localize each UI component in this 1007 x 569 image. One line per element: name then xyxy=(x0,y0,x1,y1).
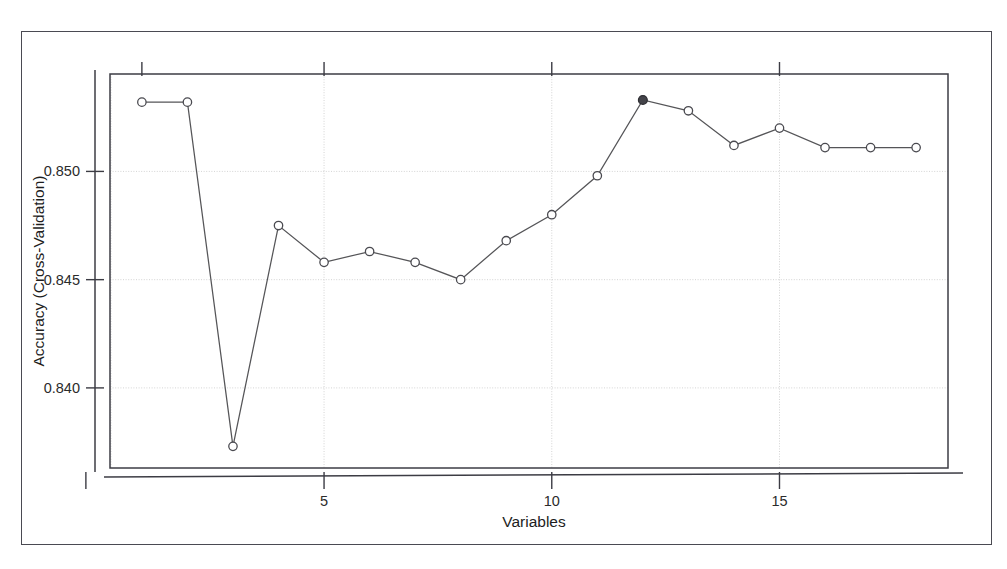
data-point xyxy=(138,98,146,106)
data-point xyxy=(229,442,237,450)
data-point xyxy=(730,141,738,149)
figure-root: 0.8400.8450.850 51015 Accuracy (Cross-Va… xyxy=(0,0,1007,569)
x-tick-label: 10 xyxy=(544,493,560,509)
data-point xyxy=(502,236,510,244)
x-axis-spine xyxy=(104,473,963,477)
data-point-selected xyxy=(638,96,647,105)
data-point xyxy=(821,143,829,151)
data-point xyxy=(548,211,556,219)
x-axis-title: Variables xyxy=(502,513,566,530)
accuracy-series-points xyxy=(138,96,921,451)
data-point xyxy=(183,98,191,106)
data-point xyxy=(365,247,373,255)
y-axis-title: Accuracy (Cross-Validation) xyxy=(30,176,47,367)
x-axis-ticks: 51015 xyxy=(86,472,788,509)
x-tick-label: 15 xyxy=(771,493,787,509)
data-point xyxy=(456,275,464,283)
x-tick-label: 5 xyxy=(320,493,328,509)
y-tick-label: 0.845 xyxy=(44,272,80,288)
data-point xyxy=(775,124,783,132)
data-point xyxy=(593,172,601,180)
gridlines xyxy=(110,74,948,468)
data-point xyxy=(912,143,920,151)
data-point xyxy=(411,258,419,266)
plot-area-box xyxy=(110,74,948,468)
data-point xyxy=(274,221,282,229)
data-point xyxy=(320,258,328,266)
y-tick-label: 0.850 xyxy=(44,163,80,179)
accuracy-vs-variables-chart: 0.8400.8450.850 51015 Accuracy (Cross-Va… xyxy=(0,0,1007,569)
data-point xyxy=(684,107,692,115)
accuracy-series-line xyxy=(142,100,916,446)
y-tick-label: 0.840 xyxy=(44,380,80,396)
data-point xyxy=(866,143,874,151)
